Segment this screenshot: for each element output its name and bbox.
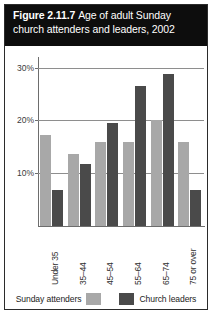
legend-label: Sunday attenders	[16, 294, 82, 304]
figure-title-line-1: Figure 2.11.7 Age of adult Sunday	[13, 9, 200, 23]
y-tick-label-10: 10%	[17, 168, 34, 178]
x-axis-label: 65–74	[161, 262, 171, 285]
x-axis-labels: Under 3535–4445–5455–6465–7475 or over	[38, 229, 205, 289]
bar-group	[95, 57, 118, 226]
plot-area: 10%20%30%	[38, 57, 204, 226]
y-tick-mark-10	[35, 173, 38, 174]
x-axis-label: 45–54	[105, 262, 115, 285]
chart-legend: Sunday attendersChurch leaders	[5, 291, 207, 307]
figure-caption-line-2: church attenders and leaders, 2002	[13, 23, 175, 35]
y-tick-label-30: 30%	[17, 63, 34, 73]
bar-group	[123, 57, 146, 226]
figure-title-band: Figure 2.11.7 Age of adult Sunday church…	[5, 5, 207, 46]
legend-label: Church leaders	[139, 294, 196, 304]
bar-group	[40, 57, 63, 226]
bar-leaders	[52, 190, 63, 226]
legend-item: Sunday attenders	[16, 293, 102, 305]
bar-attenders	[40, 135, 51, 226]
bar-group	[178, 57, 201, 226]
figure-container: Figure 2.11.7 Age of adult Sunday church…	[0, 0, 212, 314]
y-tick-label-20: 20%	[17, 115, 34, 125]
bar-group	[151, 57, 174, 226]
x-axis-label: 55–64	[133, 262, 143, 285]
figure-caption-line-1: Age of adult Sunday	[78, 9, 171, 21]
figure-title-line-2: church attenders and leaders, 2002	[13, 23, 200, 37]
bar-attenders	[95, 142, 106, 227]
legend-item: Church leaders	[119, 293, 196, 305]
bar-attenders	[151, 120, 162, 226]
x-axis-line	[38, 226, 205, 227]
plot-container: 10%20%30% Under 3535–4445–5455–6465–7475…	[5, 46, 207, 309]
bar-leaders	[80, 164, 91, 226]
x-axis-label: 75 or over	[188, 249, 198, 285]
x-axis-label: Under 35	[50, 252, 60, 285]
bar-attenders	[68, 154, 79, 226]
legend-swatch	[86, 293, 101, 305]
y-tick-mark-30	[35, 68, 38, 69]
x-axis-label: 35–44	[78, 262, 88, 285]
bar-leaders	[163, 74, 174, 226]
bar-leaders	[107, 123, 118, 226]
bar-leaders	[190, 190, 201, 226]
figure-number: Figure 2.11.7	[13, 9, 75, 21]
bar-attenders	[178, 142, 189, 227]
bar-attenders	[123, 142, 134, 227]
bar-leaders	[135, 86, 146, 226]
y-tick-mark-20	[35, 120, 38, 121]
legend-swatch	[119, 293, 134, 305]
bar-group	[68, 57, 91, 226]
